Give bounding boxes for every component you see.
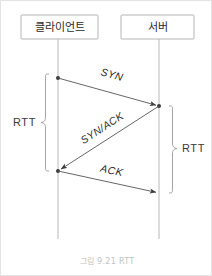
- rtt-right-brace-path: [169, 106, 177, 193]
- rtt-brace-right: RTT: [169, 106, 205, 193]
- rtt-right-label: RTT: [182, 142, 205, 154]
- rtt-left-label: RTT: [13, 116, 36, 128]
- message-ack: ACK: [56, 162, 156, 193]
- rtt-figure: 클라이언트 서버 SYN SYN/ACK ACK RTT: [0, 0, 212, 276]
- sequence-diagram: 클라이언트 서버 SYN SYN/ACK ACK RTT: [1, 1, 212, 276]
- message-syn: SYN: [56, 65, 156, 105]
- figure-caption: 그림 9.21 RTT: [80, 256, 135, 266]
- client-box-label: 클라이언트: [35, 21, 85, 34]
- message-synack: SYN/ACK: [61, 104, 161, 169]
- syn-arrow: [58, 78, 156, 105]
- syn-label: SYN: [99, 65, 124, 83]
- ack-label: ACK: [98, 162, 124, 179]
- synack-label: SYN/ACK: [78, 109, 126, 146]
- participant-server: 서버: [121, 15, 194, 39]
- server-box-label: 서버: [148, 21, 168, 34]
- rtt-left-brace-path: [41, 74, 49, 171]
- rtt-brace-left: RTT: [13, 74, 49, 171]
- participant-client: 클라이언트: [21, 15, 98, 39]
